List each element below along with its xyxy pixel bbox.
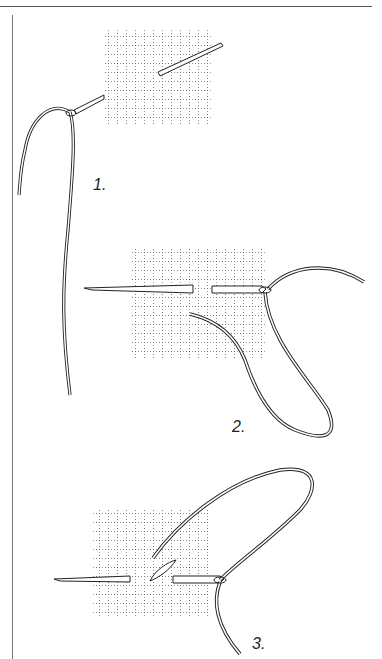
step-2-needle — [84, 285, 266, 293]
step-2-label: 2. — [232, 418, 245, 436]
step-3-canvas — [92, 510, 208, 618]
step-1-label: 1. — [93, 176, 106, 194]
illustration — [0, 0, 382, 659]
step-3-label: 3. — [252, 635, 265, 653]
step-2-canvas — [131, 248, 265, 358]
step-1-canvas — [104, 28, 212, 124]
